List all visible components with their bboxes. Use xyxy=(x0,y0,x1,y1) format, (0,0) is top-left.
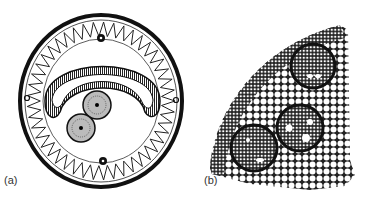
vascular-bundle xyxy=(277,105,323,151)
panel-label-b: (b) xyxy=(204,174,217,186)
vascular-bundle xyxy=(291,44,335,88)
vascular-bundle xyxy=(231,125,277,171)
panel-a-circular-section: (a) xyxy=(0,0,190,204)
radial-bundle xyxy=(67,114,95,142)
panel-label-a: (a) xyxy=(4,174,17,186)
panel-b-stem-wedge: (b) xyxy=(190,0,370,204)
circular-section-illustration xyxy=(0,0,190,204)
